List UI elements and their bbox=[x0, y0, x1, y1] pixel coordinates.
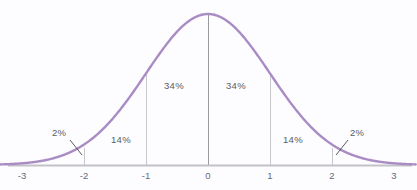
percent-label-pct-34-left: 34% bbox=[164, 81, 184, 91]
normal-distribution-chart: 2%14%34%34%14%2% -3-2-10123 bbox=[0, 0, 417, 190]
x-tick-label-1: 1 bbox=[267, 171, 272, 181]
percent-label-pct-14-left: 14% bbox=[111, 135, 131, 145]
percent-label-pct-2-right: 2% bbox=[350, 128, 364, 138]
percent-label-pct-14-right: 14% bbox=[283, 135, 303, 145]
x-tick-label--1: -1 bbox=[142, 171, 150, 181]
x-tick-label--3: -3 bbox=[18, 171, 26, 181]
percent-label-pct-2-left: 2% bbox=[52, 128, 66, 138]
percent-label-pct-34-right: 34% bbox=[226, 81, 246, 91]
chart-canvas bbox=[0, 0, 417, 190]
x-tick-label--2: -2 bbox=[80, 171, 88, 181]
x-tick-label-2: 2 bbox=[329, 171, 334, 181]
x-tick-label-0: 0 bbox=[205, 171, 210, 181]
x-tick-label-3: 3 bbox=[391, 171, 396, 181]
